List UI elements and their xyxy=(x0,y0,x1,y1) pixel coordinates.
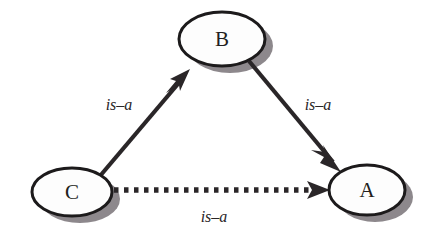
edge-c-to-a-arrowhead xyxy=(307,181,330,199)
is-a-graph: B C A is–a is–a is–a xyxy=(0,0,428,234)
edge-label-b-to-a: is–a xyxy=(305,96,332,113)
node-b-label: B xyxy=(215,27,229,51)
edges xyxy=(100,61,341,199)
edge-c-to-b-arrowhead xyxy=(166,69,190,93)
diagram-canvas: B C A is–a is–a is–a xyxy=(0,0,428,234)
node-c[interactable]: C xyxy=(32,168,112,216)
edge-label-c-to-a: is–a xyxy=(201,208,228,225)
node-a[interactable]: A xyxy=(329,165,405,215)
edge-c-to-b-line xyxy=(100,78,183,176)
node-b[interactable]: B xyxy=(179,12,265,66)
nodes: B C A xyxy=(32,12,405,216)
edge-label-c-to-b: is–a xyxy=(106,96,133,113)
edge-b-to-a-arrowhead xyxy=(311,145,341,172)
edge-labels: is–a is–a is–a xyxy=(106,96,332,225)
edge-c-to-a[interactable] xyxy=(114,181,330,199)
node-a-label: A xyxy=(359,178,375,202)
edge-b-to-a[interactable] xyxy=(249,61,341,172)
node-c-label: C xyxy=(65,180,79,204)
edge-c-to-b[interactable] xyxy=(100,69,190,176)
